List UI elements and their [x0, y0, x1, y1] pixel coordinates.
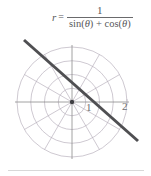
denominator-sin-text: sin( — [69, 18, 85, 29]
denominator-cos-text: cos( — [105, 18, 123, 29]
denominator-close-2: ) — [127, 18, 131, 29]
origin-marker — [70, 100, 74, 104]
equation-fraction: 1 sin(θ) + cos(θ) — [67, 5, 133, 30]
radial-tick-label-1: 1 — [86, 102, 92, 113]
equation-numerator: 1 — [93, 5, 107, 17]
polar-plot-figure: r = 1 sin(θ) + cos(θ) 1 2 — [0, 0, 151, 176]
denominator-plus-sign: + — [93, 18, 104, 29]
equation-equals-sign: = — [58, 12, 67, 22]
caption-divider-rule — [8, 170, 144, 171]
radial-tick-label-2: 2 — [122, 101, 128, 112]
curve-line — [24, 40, 138, 141]
equation-denominator: sin(θ) + cos(θ) — [67, 18, 133, 30]
equation-label: r = 1 sin(θ) + cos(θ) — [52, 1, 151, 33]
